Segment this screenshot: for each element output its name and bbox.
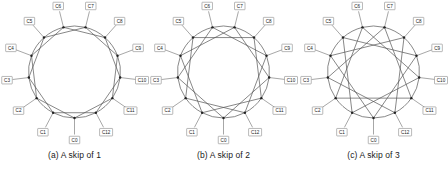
node-label-text: C1 bbox=[40, 130, 46, 135]
node-label-text: C10 bbox=[437, 78, 446, 83]
node-label-text: C11 bbox=[275, 108, 284, 113]
leader-line bbox=[60, 11, 64, 27]
leader-line bbox=[105, 25, 116, 37]
caption-a: (a) A skip of 1 bbox=[0, 150, 149, 161]
node-label-text: C0 bbox=[371, 138, 377, 143]
node-dot bbox=[383, 26, 385, 28]
ring-edge bbox=[193, 27, 212, 37]
node-dot bbox=[327, 76, 329, 78]
caption-c: (c) A skip of 3 bbox=[299, 150, 448, 161]
leader-line bbox=[404, 25, 415, 37]
ring-diagram-c: C0C1C2C3C4C5C6C7C8C9C10C11C12 bbox=[299, 0, 448, 146]
node-label-text: C5 bbox=[26, 19, 32, 24]
caption-b: (b) A skip of 2 bbox=[149, 150, 298, 161]
leader-line bbox=[45, 113, 53, 128]
node-label-text: C5 bbox=[325, 19, 331, 24]
leader-line bbox=[332, 25, 343, 37]
chord-edge bbox=[31, 56, 36, 98]
ring-edge bbox=[63, 26, 85, 27]
ring-edge bbox=[336, 98, 352, 113]
leader-line bbox=[411, 98, 425, 107]
ring-edge bbox=[417, 56, 420, 78]
chord-edge bbox=[37, 98, 75, 118]
node-label-text: C4 bbox=[307, 46, 313, 51]
chord-edge bbox=[112, 56, 117, 98]
chordal-ring-figure: C0C1C2C3C4C5C6C7C8C9C10C11C12 (a) A skip… bbox=[0, 0, 448, 174]
node-label-text: C3 bbox=[153, 78, 159, 83]
node-dot bbox=[119, 76, 121, 78]
node-dot bbox=[394, 112, 396, 114]
node-label-text: C4 bbox=[8, 46, 14, 51]
chord-edge bbox=[63, 27, 105, 37]
leader-line bbox=[254, 25, 265, 37]
node-dot bbox=[184, 97, 186, 99]
chord-edge bbox=[186, 38, 193, 99]
node-label-text: C1 bbox=[189, 130, 195, 135]
chord-edge bbox=[330, 38, 404, 56]
ring-edge bbox=[53, 113, 74, 118]
node-label-text: C3 bbox=[303, 78, 309, 83]
node-label-text: C12 bbox=[102, 130, 111, 135]
leader-line bbox=[359, 11, 363, 27]
node-label-text: C6 bbox=[354, 4, 360, 9]
diagram-panel-b: C0C1C2C3C4C5C6C7C8C9C10C11C12 (b) A skip… bbox=[149, 0, 298, 174]
node-dot bbox=[95, 112, 97, 114]
leader-line bbox=[16, 50, 31, 56]
leader-line bbox=[417, 50, 432, 56]
node-dot bbox=[192, 36, 194, 38]
leader-line bbox=[209, 11, 213, 27]
chord-edge bbox=[178, 27, 213, 77]
node-dot bbox=[111, 97, 113, 99]
node-dot bbox=[361, 26, 363, 28]
leader-line bbox=[165, 50, 180, 56]
node-dot bbox=[410, 97, 412, 99]
node-label-text: C8 bbox=[266, 19, 272, 24]
node-dot bbox=[84, 26, 86, 28]
ring-edge bbox=[385, 27, 404, 37]
node-dot bbox=[342, 36, 344, 38]
chord-edge bbox=[235, 27, 270, 77]
node-dot bbox=[415, 54, 417, 56]
ring-edge bbox=[235, 27, 254, 37]
leader-line bbox=[267, 50, 282, 56]
node-dot bbox=[52, 112, 54, 114]
chord-edge bbox=[75, 98, 113, 118]
node-label-text: C8 bbox=[117, 19, 123, 24]
chord-edge bbox=[328, 78, 395, 113]
node-label-text: C8 bbox=[416, 19, 422, 24]
node-label-text: C2 bbox=[165, 108, 171, 113]
node-label-text: C6 bbox=[55, 4, 61, 9]
leader-line bbox=[322, 98, 336, 107]
node-dot bbox=[35, 97, 37, 99]
node-dot bbox=[403, 36, 405, 38]
node-label-text: C2 bbox=[315, 108, 321, 113]
leader-line bbox=[419, 78, 435, 80]
leader-line bbox=[235, 11, 239, 27]
node-dot bbox=[28, 76, 30, 78]
node-dot bbox=[104, 36, 106, 38]
diagram-panel-a: C0C1C2C3C4C5C6C7C8C9C10C11C12 (a) A skip… bbox=[0, 0, 149, 174]
node-label-text: C3 bbox=[4, 78, 10, 83]
leader-line bbox=[161, 78, 177, 80]
node-dot bbox=[116, 54, 118, 56]
ring-diagram-b: C0C1C2C3C4C5C6C7C8C9C10C11C12 bbox=[149, 0, 298, 146]
node-label-text: C7 bbox=[387, 4, 393, 9]
chord-edge bbox=[44, 27, 86, 37]
chord-edge bbox=[343, 38, 417, 56]
ring-edge bbox=[343, 27, 362, 37]
chord-edge bbox=[352, 78, 419, 113]
node-label-text: C11 bbox=[425, 108, 434, 113]
node-dot bbox=[253, 36, 255, 38]
leader-line bbox=[311, 78, 327, 80]
ring-edge bbox=[212, 26, 234, 27]
leader-line bbox=[12, 78, 28, 80]
chord-edge bbox=[29, 78, 53, 113]
node-label-text: C9 bbox=[284, 46, 290, 51]
node-dot bbox=[179, 54, 181, 56]
node-dot bbox=[244, 112, 246, 114]
node-label-text: C10 bbox=[138, 78, 147, 83]
leader-line bbox=[23, 98, 37, 107]
leader-line bbox=[395, 113, 403, 128]
leader-line bbox=[182, 25, 193, 37]
leader-line bbox=[86, 11, 90, 27]
